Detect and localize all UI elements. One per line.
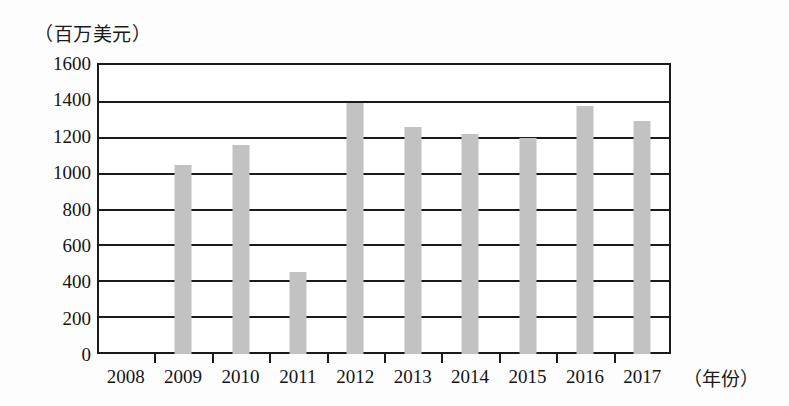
x-tick-label: 2016: [566, 366, 604, 388]
y-axis-unit-caption: （百万美元）: [34, 19, 151, 46]
y-tick-label: 600: [31, 235, 91, 254]
x-tick-label: 2013: [394, 366, 432, 388]
x-axis-ticks: [97, 354, 671, 364]
x-axis-tick-labels: 2008200920102011201220132014201520162017: [97, 366, 671, 396]
gridline: [99, 209, 669, 211]
bar-chart: （百万美元） 1600 1400 1200 1000 800 600 400 2…: [0, 0, 789, 406]
x-tick-mark: [441, 354, 443, 363]
x-tick-mark: [556, 354, 558, 363]
x-tick-label: 2017: [623, 366, 661, 388]
y-axis-tick-labels: 1600 1400 1200 1000 800 600 400 200 0: [27, 63, 91, 354]
x-tick-mark: [384, 354, 386, 363]
y-tick-label: 400: [31, 272, 91, 291]
x-tick-label: 2010: [222, 366, 260, 388]
y-tick-label: 0: [31, 345, 91, 364]
x-tick-label: 2009: [164, 366, 202, 388]
gridline: [99, 316, 669, 318]
y-tick-label: 1600: [31, 54, 91, 73]
y-tick-label: 200: [31, 308, 91, 327]
y-tick-label: 1400: [31, 90, 91, 109]
gridline: [99, 137, 669, 139]
gridline: [99, 244, 669, 246]
x-tick-label: 2008: [107, 366, 145, 388]
x-axis-caption: （年份）: [683, 364, 759, 391]
x-tick-mark: [327, 354, 329, 363]
y-tick-label: 800: [31, 199, 91, 218]
x-tick-mark: [212, 354, 214, 363]
x-tick-mark: [614, 354, 616, 363]
x-tick-label: 2011: [279, 366, 316, 388]
gridline: [99, 173, 669, 175]
y-tick-label: 1000: [31, 163, 91, 182]
x-tick-mark: [269, 354, 271, 363]
gridline: [99, 280, 669, 282]
x-tick-label: 2014: [451, 366, 489, 388]
x-tick-mark: [154, 354, 156, 363]
x-tick-mark: [499, 354, 501, 363]
x-tick-label: 2012: [336, 366, 374, 388]
y-tick-label: 1200: [31, 126, 91, 145]
plot-area: [97, 63, 671, 354]
gridline: [99, 101, 669, 103]
x-tick-label: 2015: [509, 366, 547, 388]
